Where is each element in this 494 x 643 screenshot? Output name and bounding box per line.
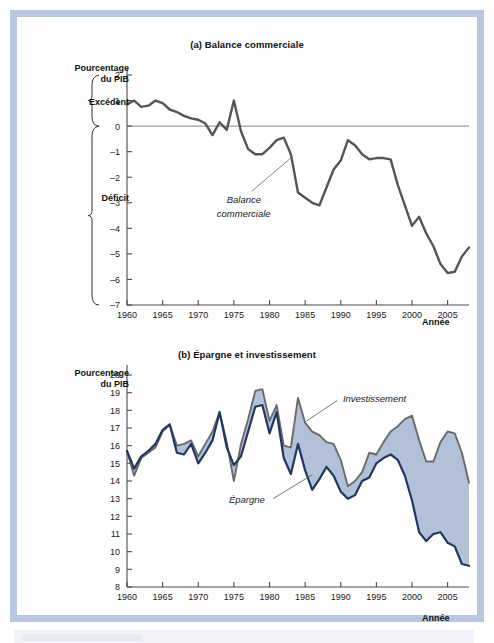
panel-b-xtick-7: 1995	[366, 592, 386, 602]
panel-a-title: (a) Balance commerciale	[17, 39, 477, 50]
panel-a-annotation-line2: commerciale	[217, 208, 271, 219]
panel-b-xtick-6: 1990	[331, 592, 351, 602]
panel-a-y-caption-line2: du PIB	[25, 74, 129, 85]
panel-a-annotation-leader	[252, 157, 293, 192]
panel-a-xtick-6: 1990	[331, 310, 351, 319]
panel-b-ytick-8: 12	[110, 512, 120, 522]
panel-a-xtick-0: 1960	[117, 310, 137, 319]
panel-a-y-caption: Pourcentage du PIB	[25, 63, 129, 85]
panel-balance-commerciale: (a) Balance commerciale Pourcentage du P…	[17, 17, 477, 317]
panel-b-annotation-epargne: Épargne	[229, 494, 265, 505]
panel-b-title: (b) Épargne et investissement	[17, 349, 477, 360]
panel-a-xtick-4: 1980	[259, 310, 279, 319]
panel-a-ytick-3: –1	[110, 147, 120, 157]
panel-b-ytick-5: 15	[110, 459, 120, 469]
panel-b-annotation-investissement-leader	[307, 401, 338, 421]
page-bleed-text	[22, 634, 142, 641]
panel-a-bracket-deficit: Déficit	[39, 193, 129, 203]
panel-b-ytick-6: 14	[110, 476, 120, 486]
panel-a-xtick-7: 1995	[366, 310, 386, 319]
panel-a-ytick-4: –2	[110, 173, 120, 183]
panel-b-y-caption: Pourcentage du PIB	[25, 368, 129, 390]
panel-b-y-caption-line1: Pourcentage	[25, 368, 129, 379]
panel-b-xtick-3: 1975	[224, 592, 244, 602]
panel-b-xtick-2: 1970	[188, 592, 208, 602]
figure-inner: (a) Balance commerciale Pourcentage du P…	[17, 17, 477, 615]
panel-b-xtick-0: 1960	[117, 592, 137, 602]
panel-a-xtick-3: 1975	[224, 310, 244, 319]
panel-b-ytick-10: 10	[110, 547, 120, 557]
panel-b-gap-fill	[127, 389, 469, 566]
panel-b-xtick-4: 1980	[259, 592, 279, 602]
panel-a-xtick-5: 1985	[295, 310, 315, 319]
panel-a-annotation-line1: Balance	[227, 194, 261, 205]
panel-a-xtick-1: 1965	[153, 310, 173, 319]
panel-b-y-caption-line2: du PIB	[25, 379, 129, 390]
panel-b-ytick-4: 16	[110, 441, 120, 451]
panel-b-annotation-epargne-leader	[273, 475, 312, 499]
panel-a-xtick-8: 2000	[402, 310, 422, 319]
panel-a-ytick-2: 0	[115, 122, 120, 132]
panel-b-xtick-9: 2005	[438, 592, 458, 602]
panel-a-ytick-6: –4	[110, 224, 120, 234]
panel-epargne-investissement: (b) Épargne et investissement Pourcentag…	[17, 337, 477, 629]
panel-a-x-axis-label: Année	[422, 317, 450, 327]
panel-a-ytick-7: –5	[110, 249, 120, 259]
panel-b-annotation-investissement: Investissement	[343, 393, 407, 404]
panel-b-ytick-2: 18	[110, 406, 120, 416]
panel-b-ytick-7: 13	[110, 494, 120, 504]
panel-b-x-axis-label: Année	[422, 613, 450, 623]
panel-b-ytick-12: 8	[115, 582, 120, 592]
figure-root: (a) Balance commerciale Pourcentage du P…	[0, 0, 494, 643]
panel-a-ytick-9: –7	[110, 300, 120, 310]
panel-b-xtick-5: 1985	[295, 592, 315, 602]
panel-a-xtick-2: 1970	[188, 310, 208, 319]
panel-a-ytick-8: –6	[110, 275, 120, 285]
panel-a-bracket-deficit-glyph	[88, 126, 99, 305]
panel-b-ytick-9: 11	[111, 529, 120, 539]
panel-b-xtick-8: 2000	[402, 592, 422, 602]
figure-frame: (a) Balance commerciale Pourcentage du P…	[10, 10, 484, 622]
panel-b-ytick-3: 17	[110, 423, 120, 433]
panel-a-y-caption-line1: Pourcentage	[25, 63, 129, 74]
panel-a-bracket-excedent: Excédent	[39, 97, 129, 107]
panel-b-xtick-1: 1965	[153, 592, 173, 602]
panel-b-ytick-11: 9	[115, 565, 120, 575]
